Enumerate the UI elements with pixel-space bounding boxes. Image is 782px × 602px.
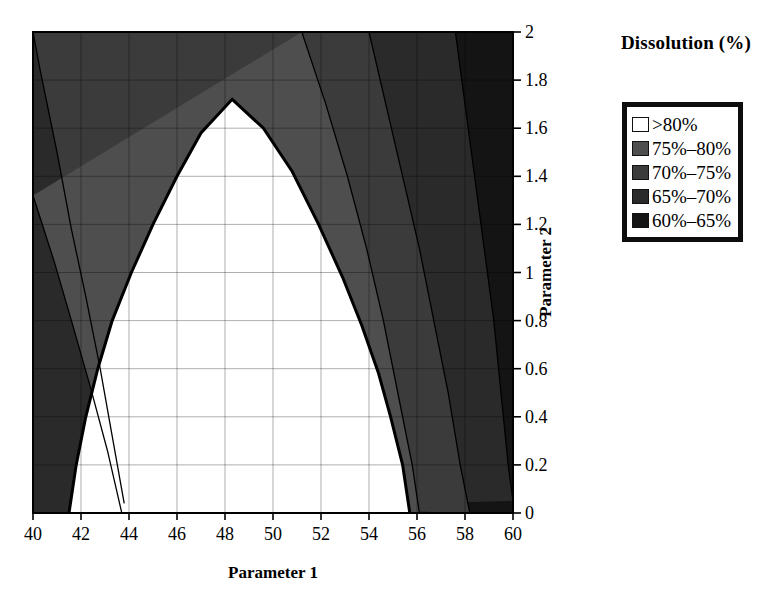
legend: Dissolution (%) >80%75%–80%70%–75%65%–70… <box>596 32 782 54</box>
legend-row: 60%–65% <box>632 208 731 232</box>
legend-row: >80% <box>632 112 731 136</box>
y-tick-label: 1.6 <box>525 118 548 138</box>
legend-swatch <box>632 213 649 228</box>
x-axis-ticks: 4042444648505254565860 <box>24 513 522 544</box>
legend-label: 75%–80% <box>652 139 731 158</box>
x-tick-label: 40 <box>24 524 42 544</box>
y-tick-label: 2 <box>525 22 534 42</box>
contour-plot-svg: 4042444648505254565860 00.20.40.60.811.2… <box>0 0 560 602</box>
x-tick-label: 42 <box>72 524 90 544</box>
legend-swatch <box>632 141 649 156</box>
legend-swatch <box>632 117 649 132</box>
y-tick-label: 0.4 <box>525 407 548 427</box>
contour-plot-figure: 4042444648505254565860 00.20.40.60.811.2… <box>0 0 782 602</box>
y-axis-title: Parameter 2 <box>536 227 555 317</box>
y-tick-label: 1.4 <box>525 166 548 186</box>
legend-swatch <box>632 165 649 180</box>
y-tick-label: 1 <box>525 263 534 283</box>
y-tick-label: 0.2 <box>525 455 548 475</box>
x-tick-label: 46 <box>168 524 186 544</box>
x-axis-title: Parameter 1 <box>228 563 318 582</box>
x-tick-label: 58 <box>456 524 474 544</box>
x-tick-label: 44 <box>120 524 138 544</box>
legend-row: 75%–80% <box>632 136 731 160</box>
y-tick-label: 1.8 <box>525 70 548 90</box>
y-tick-label: 0 <box>525 503 534 523</box>
legend-box: >80%75%–80%70%–75%65%–70%60%–65% <box>622 102 743 242</box>
x-tick-label: 54 <box>360 524 378 544</box>
legend-label: 65%–70% <box>652 187 731 206</box>
x-tick-label: 56 <box>408 524 426 544</box>
legend-row: 70%–75% <box>632 160 731 184</box>
legend-label: >80% <box>652 115 698 134</box>
legend-row: 65%–70% <box>632 184 731 208</box>
y-tick-label: 0.6 <box>525 359 548 379</box>
legend-title: Dissolution (%) <box>596 32 776 54</box>
x-tick-label: 50 <box>264 524 282 544</box>
x-tick-label: 60 <box>504 524 522 544</box>
plot-area-wrapper: 4042444648505254565860 00.20.40.60.811.2… <box>0 0 560 602</box>
x-tick-label: 48 <box>216 524 234 544</box>
legend-label: 70%–75% <box>652 163 731 182</box>
legend-swatch <box>632 189 649 204</box>
x-tick-label: 52 <box>312 524 330 544</box>
legend-label: 60%–65% <box>652 211 731 230</box>
